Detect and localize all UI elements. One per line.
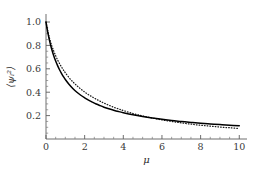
x-tick-label: 2	[82, 141, 88, 152]
x-axis-title: μ	[143, 154, 150, 165]
x-tick-label: 8	[198, 141, 204, 152]
y-tick-label: 1.0	[26, 16, 41, 27]
x-tick-label: 10	[233, 141, 245, 152]
y-axis-title: ⟨ψᵢ²⟩	[5, 66, 16, 88]
chart-plot: 0.20.40.60.81.0 0246810 μ ⟨ψᵢ²⟩	[0, 0, 261, 170]
y-tick-label: 0.6	[26, 63, 41, 74]
x-tick-label: 4	[120, 141, 126, 152]
figure-container: 0.20.40.60.81.0 0246810 μ ⟨ψᵢ²⟩	[0, 0, 261, 170]
y-tick-label: 0.2	[26, 110, 41, 121]
y-tick-label: 0.8	[26, 40, 41, 51]
x-tick-label: 6	[159, 141, 165, 152]
x-tick-label: 0	[43, 141, 49, 152]
y-tick-label: 0.4	[26, 87, 41, 98]
